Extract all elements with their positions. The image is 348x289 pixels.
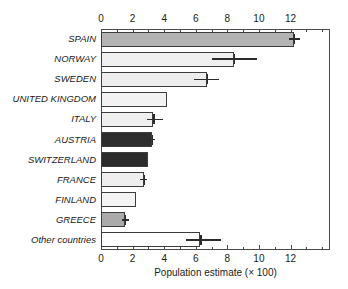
- x-tick-label-top: 6: [181, 13, 211, 24]
- x-tick-label-bottom: 2: [118, 253, 148, 264]
- category-label-united-kingdom: UNITED KINGDOM: [0, 93, 96, 104]
- x-tick-label-bottom: 0: [86, 253, 116, 264]
- error-bar-center-cap: [234, 54, 235, 64]
- major-tick-bottom: [227, 245, 228, 250]
- x-tick-label-top: 10: [244, 13, 274, 24]
- error-bar-center-cap: [153, 114, 154, 124]
- bar-finland: [101, 192, 136, 207]
- error-bar-center-cap: [125, 215, 126, 225]
- category-label-austria: AUSTRIA: [0, 134, 96, 145]
- x-tick-label-bottom: 6: [181, 253, 211, 264]
- minor-tick-top: [322, 29, 323, 32]
- error-bar-italy: [147, 119, 163, 120]
- x-tick-label-bottom: 10: [244, 253, 274, 264]
- bar-united-kingdom: [101, 92, 167, 107]
- bar-spain: [101, 32, 294, 47]
- bar-austria: [101, 132, 152, 147]
- error-bar-center-cap: [144, 175, 145, 185]
- category-label-other-countries: Other countries: [0, 234, 96, 245]
- error-bar-center-cap: [152, 135, 153, 145]
- category-label-italy: ITALY: [0, 113, 96, 124]
- minor-tick-bottom: [275, 247, 276, 250]
- error-bar-center-cap: [294, 34, 295, 44]
- bar-sweden: [101, 72, 207, 87]
- x-tick-label-top: 0: [86, 13, 116, 24]
- x-tick-label-top: 4: [149, 13, 179, 24]
- category-label-france: FRANCE: [0, 174, 96, 185]
- x-axis-title: Population estimate (× 100): [101, 267, 330, 278]
- minor-tick-bottom: [243, 247, 244, 250]
- bar-italy: [101, 112, 153, 127]
- error-bar-center-cap: [207, 74, 208, 84]
- minor-tick-bottom: [212, 247, 213, 250]
- category-label-finland: FINLAND: [0, 194, 96, 205]
- category-label-sweden: SWEDEN: [0, 73, 96, 84]
- bar-france: [101, 172, 144, 187]
- bar-switzerland: [101, 152, 148, 167]
- x-tick-label-top: 12: [276, 13, 306, 24]
- category-label-norway: NORWAY: [0, 53, 96, 64]
- category-label-greece: GREECE: [0, 214, 96, 225]
- error-bar-other-countries: [186, 239, 221, 240]
- minor-tick-bottom: [322, 247, 323, 250]
- error-bar-center-cap: [200, 235, 201, 245]
- x-tick-label-top: 2: [118, 13, 148, 24]
- minor-tick-top: [306, 29, 307, 32]
- category-label-spain: SPAIN: [0, 33, 96, 44]
- major-tick-bottom: [259, 245, 260, 250]
- x-tick-label-bottom: 4: [149, 253, 179, 264]
- major-tick-bottom: [291, 245, 292, 250]
- category-label-switzerland: SWITZERLAND: [0, 154, 96, 165]
- x-tick-label-bottom: 8: [212, 253, 242, 264]
- x-tick-label-top: 8: [212, 13, 242, 24]
- minor-tick-bottom: [306, 247, 307, 250]
- x-tick-label-bottom: 12: [276, 253, 306, 264]
- bar-chart-figure: 024681012024681012Population estimate (×…: [0, 0, 348, 289]
